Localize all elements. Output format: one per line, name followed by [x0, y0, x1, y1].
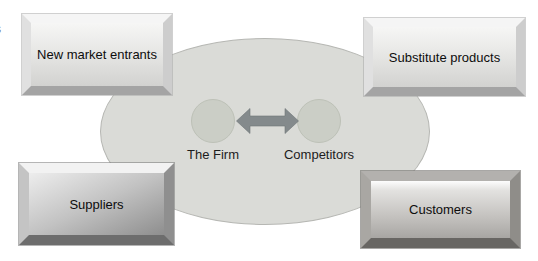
box-substitute-products: Substitute products — [364, 18, 525, 96]
the-firm-label: The Firm — [173, 147, 253, 162]
competitors-circle — [297, 99, 341, 143]
box-suppliers-label: Suppliers — [69, 197, 123, 212]
clipped-text-fragment: s — [0, 22, 4, 36]
box-suppliers: Suppliers — [19, 163, 174, 245]
box-new-market-entrants: New market entrants — [22, 14, 172, 95]
competitors-label: Competitors — [278, 147, 360, 162]
double-arrow-icon — [236, 107, 299, 135]
box-customers-label: Customers — [409, 202, 472, 217]
box-customers: Customers — [361, 171, 520, 248]
box-new-market-entrants-label: New market entrants — [37, 47, 157, 62]
box-substitute-products-label: Substitute products — [389, 50, 500, 65]
diagram-canvas: s The Firm Competitors New market entran… — [0, 0, 538, 261]
the-firm-circle — [191, 99, 235, 143]
